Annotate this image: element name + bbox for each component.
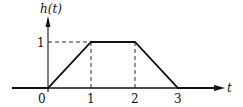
- y-axis-arrow-icon: [46, 16, 51, 27]
- x-tick-0: 0: [38, 92, 46, 106]
- x-tick-2: 2: [131, 92, 139, 106]
- trapezoid-plot: h(t) t 1 0 1 2 3: [0, 0, 243, 107]
- y-tick-1: 1: [37, 36, 45, 50]
- x-axis-label: t: [227, 81, 232, 95]
- x-tick-1: 1: [87, 92, 95, 106]
- x-tick-3: 3: [174, 92, 182, 106]
- y-axis-label: h(t): [40, 2, 62, 16]
